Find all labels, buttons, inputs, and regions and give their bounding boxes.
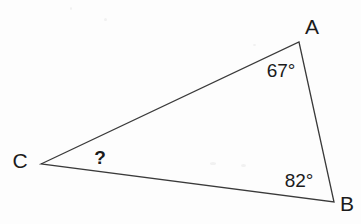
vertex-label-a: A	[305, 16, 319, 37]
vertex-label-c: C	[12, 150, 27, 171]
geometry-figure: A B C 67° 82° ?	[0, 0, 361, 224]
angle-label-b: 82°	[285, 171, 314, 190]
vertex-label-b: B	[340, 193, 354, 214]
angle-label-a: 67°	[267, 61, 296, 80]
angle-label-c-unknown: ?	[94, 148, 106, 167]
